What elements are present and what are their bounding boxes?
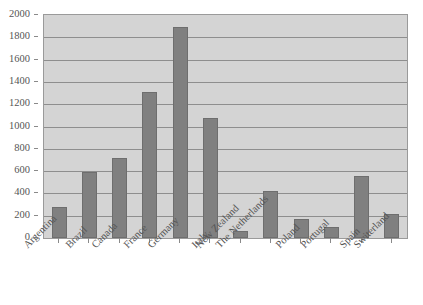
x-axis: ArgentinaBrazilCanadaFranceGermanyItalyN… — [0, 243, 423, 305]
y-tick-mark — [34, 59, 38, 60]
bar — [173, 27, 188, 238]
bar-chart: 0200400600800100012001400160018002000 Ar… — [0, 0, 423, 305]
y-tick-mark — [34, 215, 38, 216]
y-tick-label: 800 — [14, 143, 30, 154]
y-axis: 0200400600800100012001400160018002000 — [0, 14, 38, 237]
y-tick-mark — [34, 103, 38, 104]
bar — [142, 92, 157, 238]
y-tick-mark — [34, 192, 38, 193]
y-tick-label: 600 — [14, 165, 30, 176]
y-tick-label: 1600 — [9, 53, 30, 64]
y-tick-mark — [34, 148, 38, 149]
y-tick-label: 1400 — [9, 76, 30, 87]
y-tick-mark — [34, 170, 38, 171]
plot-area — [43, 14, 408, 239]
y-tick-mark — [34, 81, 38, 82]
y-tick-label: 1000 — [9, 120, 30, 131]
bars-group — [44, 15, 407, 238]
y-tick-label: 2000 — [9, 9, 30, 20]
y-tick-label: 200 — [14, 209, 30, 220]
y-tick-label: 1800 — [9, 31, 30, 42]
y-tick-mark — [34, 36, 38, 37]
y-tick-mark — [34, 126, 38, 127]
y-tick-mark — [34, 14, 38, 15]
y-tick-label: 1200 — [9, 98, 30, 109]
y-tick-label: 400 — [14, 187, 30, 198]
